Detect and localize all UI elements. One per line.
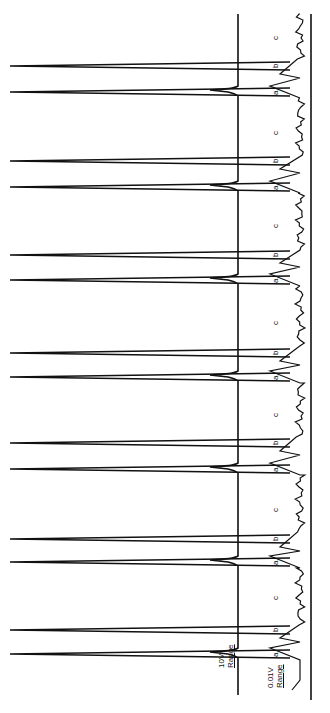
peak-label-a: a — [271, 185, 280, 190]
peak-label-b: b — [271, 252, 280, 257]
peak-spike — [10, 650, 290, 658]
peak-label-c: c — [271, 224, 280, 228]
peak-label-a: a — [271, 652, 280, 657]
range-label-10v: 10V Range — [217, 644, 235, 668]
peak-label-b: b — [271, 627, 280, 632]
peak-label-a: a — [271, 560, 280, 565]
peak-label-b: b — [271, 63, 280, 68]
peak-spike — [10, 62, 290, 70]
peak-label-b: b — [271, 158, 280, 163]
peak-label-a: a — [271, 278, 280, 283]
peak-spike — [10, 88, 290, 96]
peak-label-c: c — [271, 131, 280, 135]
peak-spike — [10, 373, 290, 381]
peak-spike — [10, 349, 290, 357]
peak-label-c: c — [271, 508, 280, 512]
peak-label-a: a — [271, 467, 280, 472]
peak-label-c: c — [271, 36, 280, 40]
peak-spike — [10, 276, 290, 284]
peak-spike — [10, 626, 290, 634]
peak-spike — [10, 558, 290, 566]
trace-10v — [210, 14, 238, 695]
peak-label-b: b — [271, 440, 280, 445]
peak-spike — [10, 465, 290, 473]
peak-label-a: a — [271, 90, 280, 95]
peak-label-a: a — [271, 375, 280, 380]
peak-label-b: b — [271, 536, 280, 541]
peak-spike — [10, 535, 290, 543]
peak-label-b: b — [271, 350, 280, 355]
peak-label-c: c — [271, 413, 280, 417]
peak-spike — [10, 183, 290, 191]
peak-label-c: c — [271, 321, 280, 325]
peak-spike — [10, 157, 290, 165]
peak-spike — [10, 251, 290, 259]
chart-recorder-trace: abcabcabcabcabcabcabc — [0, 0, 330, 713]
peak-spike — [10, 439, 290, 447]
range-label-001v: 0.01V Range — [266, 664, 284, 688]
peak-label-c: c — [271, 596, 280, 600]
